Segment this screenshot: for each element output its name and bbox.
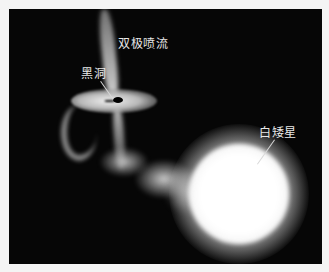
- black-hole-label: 黑洞: [81, 64, 106, 81]
- black-hole: [113, 97, 123, 103]
- white-dwarf-label: 白矮星: [259, 123, 297, 140]
- white-dwarf: [189, 144, 289, 244]
- jet-label: 双极喷流: [118, 34, 168, 51]
- stream-arc: [61, 105, 97, 161]
- upper-jet: [97, 9, 121, 101]
- illustration-frame: 双极喷流 黑洞 白矮星: [9, 9, 322, 264]
